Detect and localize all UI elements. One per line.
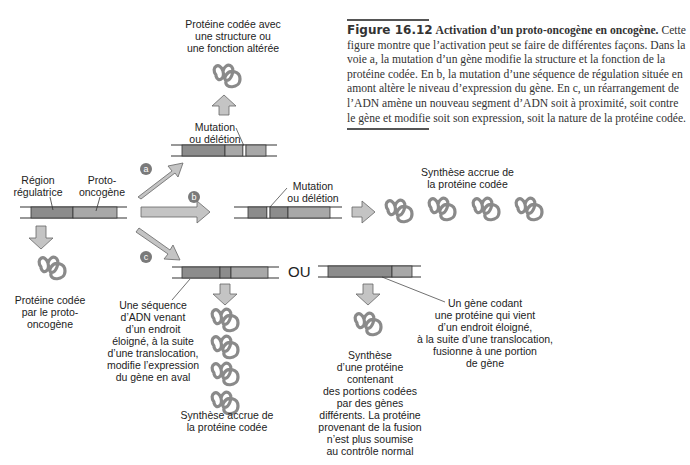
caption-rule-bottom [347,128,429,130]
protein-c-left-icon-2 [212,336,238,358]
protein-c-left-icon-1 [212,309,238,331]
label-fusion-gene: Un gène codant une protéine qui vient d’… [410,297,560,369]
protein-altered-icon [214,65,240,87]
figure-body: Cette figure montre que l’activation peu… [347,24,686,125]
caption-rule-top [347,19,429,21]
arrow-b-result [352,201,375,223]
label-fusion-protein: Synthèse d’une protéine contenant des po… [315,349,425,457]
label-translocation-sequence: Une séquence d’ADN venant d’un endroit é… [105,299,201,383]
figure-number: Figure 16.12 [347,23,433,37]
svg-text:b: b [191,192,196,202]
label-mutation-a: Mutation ou délétion [180,121,250,145]
protein-c-left-icon-3 [212,363,238,385]
protein-fusion-icon [355,313,381,335]
protein-original-icon [39,257,65,279]
label-increased-synthesis-b: Synthèse accrue de la protéine codée [410,166,525,190]
arrow-b [141,201,210,223]
label-or: OU [288,263,311,280]
label-proto-oncogene: Proto- oncogène [76,174,128,198]
label-mutation-b: Mutation ou délétion [278,180,348,204]
svg-text:a: a [143,164,148,174]
svg-text:c: c [144,252,149,262]
label-altered-protein: Protéine codée avec une structure ou une… [168,18,298,54]
protein-increased-icon-1 [386,200,412,222]
protein-increased-icon-4 [516,198,542,220]
protein-increased-icon-3 [473,198,499,220]
dna-original [20,197,127,218]
label-original-protein: Protéine codée par le proto- oncogène [10,294,90,330]
protein-increased-icon-2 [429,198,455,220]
arrow-up-a [212,95,236,115]
figure-title: Activation d’un proto-oncogène en oncogè… [436,24,659,37]
figure-caption: Figure 16.12 Activation d’un proto-oncog… [347,17,687,132]
arrow-down-c-left [213,284,237,305]
label-regulatory-region: Région régulatrice [8,174,68,198]
arrow-down-c-right [356,284,380,305]
arrow-down-original [29,226,53,249]
label-increased-synthesis-c: Synthèse accrue de la protéine codée [172,409,282,433]
